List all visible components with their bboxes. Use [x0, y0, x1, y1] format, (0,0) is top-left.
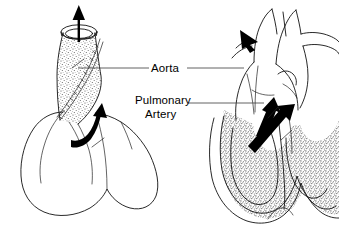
- vessel-rim-wall-left: [61, 32, 62, 36]
- aorta-label: Aorta: [151, 62, 179, 74]
- diagram-canvas: Aorta Pulmonary Artery: [0, 0, 339, 237]
- vessel-rim-wall-right: [96, 32, 97, 36]
- pulmonary-artery-label-line1: Pulmonary: [135, 94, 191, 106]
- pulmonary-artery-label-line2: Artery: [145, 108, 176, 120]
- anatomical-diagram: Aorta Pulmonary Artery: [0, 0, 339, 237]
